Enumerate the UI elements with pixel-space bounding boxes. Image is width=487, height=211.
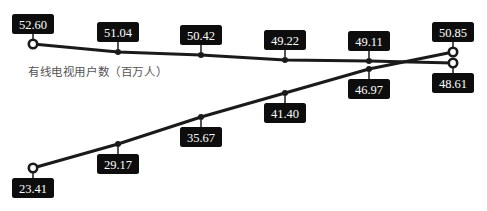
label-value: 48.61 bbox=[439, 77, 467, 91]
data-label: 35.67 bbox=[180, 120, 222, 147]
data-label: 50.42 bbox=[180, 25, 222, 52]
point-marker bbox=[198, 52, 204, 58]
series-annotation: 有线电视用户数（百万人） bbox=[28, 63, 167, 79]
point-marker bbox=[366, 66, 372, 72]
endpoint-marker bbox=[449, 59, 457, 67]
label-value: 50.85 bbox=[439, 26, 467, 40]
label-value: 29.17 bbox=[104, 158, 132, 172]
data-label: 50.85 bbox=[432, 22, 474, 49]
label-value: 46.97 bbox=[355, 83, 383, 97]
data-label: 41.40 bbox=[264, 96, 306, 123]
label-value: 23.41 bbox=[19, 182, 47, 196]
data-label: 29.17 bbox=[97, 147, 139, 174]
label-value: 51.04 bbox=[104, 26, 133, 40]
label-value: 52.60 bbox=[19, 18, 47, 32]
point-marker bbox=[282, 90, 288, 96]
point-marker bbox=[366, 58, 372, 64]
label-value: 49.11 bbox=[355, 35, 383, 49]
data-label: 52.60 bbox=[12, 14, 54, 41]
data-label: 51.04 bbox=[97, 22, 139, 49]
point-marker bbox=[115, 49, 121, 55]
point-marker bbox=[282, 57, 288, 63]
label-value: 50.42 bbox=[187, 29, 215, 43]
point-marker bbox=[198, 114, 204, 120]
line-chart: 52.6051.0450.4249.2249.1148.6123.4129.17… bbox=[0, 0, 487, 211]
point-marker bbox=[115, 141, 121, 147]
data-label: 23.41 bbox=[12, 171, 54, 198]
endpoint-marker bbox=[29, 40, 37, 48]
data-label: 49.11 bbox=[348, 31, 390, 58]
label-value: 49.22 bbox=[271, 34, 299, 48]
data-label: 48.61 bbox=[432, 66, 474, 93]
endpoint-marker bbox=[449, 48, 457, 56]
endpoint-marker bbox=[29, 164, 37, 172]
data-label: 46.97 bbox=[348, 72, 390, 99]
label-value: 35.67 bbox=[187, 131, 215, 145]
data-label: 49.22 bbox=[264, 30, 306, 57]
label-value: 41.40 bbox=[271, 107, 299, 121]
